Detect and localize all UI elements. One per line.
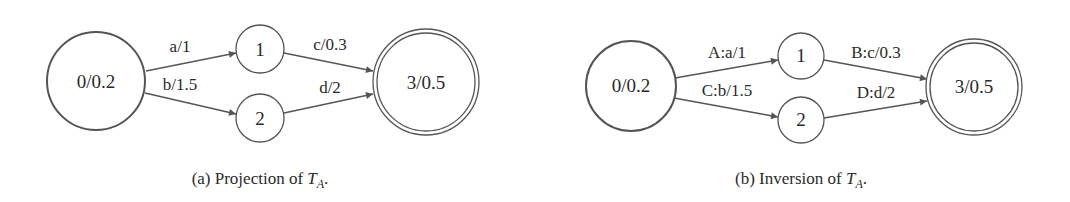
- state-0-initial: 0/0.2: [47, 32, 145, 130]
- edge-label-0-2: b/1.5: [163, 75, 197, 94]
- state-1: 1: [778, 33, 824, 79]
- state-1: 1: [236, 25, 284, 73]
- state-2: 2: [778, 97, 824, 143]
- state-0-initial: 0/0.2: [586, 41, 676, 131]
- state-3-final: 3/0.5: [926, 39, 1022, 135]
- state-2-label: 2: [255, 108, 265, 129]
- state-3-label: 3/0.5: [407, 72, 446, 93]
- state-2-label: 2: [796, 109, 806, 130]
- figure-a-projection: a/1 b/1.5 c/0.3 d/2 0/0.2 1 2 3/0.5 (a) …: [47, 25, 479, 191]
- edge-label-0-1: a/1: [170, 37, 191, 56]
- caption-a: (a) Projection of TA.: [192, 169, 329, 191]
- edge-2-to-3: [824, 101, 927, 118]
- edge-label-2-3: d/2: [319, 78, 341, 97]
- edge-label-0-1: A:a/1: [708, 43, 746, 62]
- edge-1-to-3: [284, 53, 373, 71]
- state-2: 2: [236, 94, 284, 142]
- edge-label-1-3: B:c/0.3: [851, 43, 901, 62]
- figure-canvas: a/1 b/1.5 c/0.3 d/2 0/0.2 1 2 3/0.5 (a) …: [0, 0, 1070, 202]
- figure-b-inversion: A:a/1 C:b/1.5 B:c/0.3 D:d/2 0/0.2 1 2 3/…: [586, 33, 1022, 191]
- edge-1-to-3: [824, 60, 927, 79]
- edge-0-to-1: [675, 60, 778, 78]
- state-0-label: 0/0.2: [77, 71, 116, 92]
- edge-label-2-3: D:d/2: [857, 83, 896, 102]
- state-0-label: 0/0.2: [612, 75, 651, 96]
- state-3-final: 3/0.5: [373, 29, 479, 135]
- caption-b: (b) Inversion of TA.: [735, 169, 867, 191]
- edge-0-to-2: [145, 93, 236, 114]
- edge-0-to-2: [674, 98, 778, 117]
- edge-0-to-1: [146, 53, 236, 71]
- state-1-label: 1: [796, 45, 806, 66]
- edge-label-1-3: c/0.3: [313, 35, 347, 54]
- state-3-label: 3/0.5: [955, 76, 994, 97]
- state-1-label: 1: [255, 39, 265, 60]
- edge-label-0-2: C:b/1.5: [702, 81, 753, 100]
